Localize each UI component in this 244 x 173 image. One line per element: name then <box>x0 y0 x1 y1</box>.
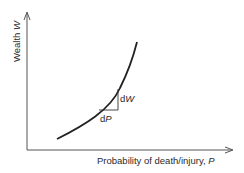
x-axis-label: Probability of death/injury, P <box>97 155 215 166</box>
y-axis-label: Wealth W <box>11 21 22 62</box>
slope-triangle <box>99 89 118 110</box>
dw-label: dW <box>120 93 134 104</box>
wealth-curve <box>57 42 137 139</box>
dp-label: dP <box>100 113 112 124</box>
diagram-canvas <box>0 0 244 173</box>
